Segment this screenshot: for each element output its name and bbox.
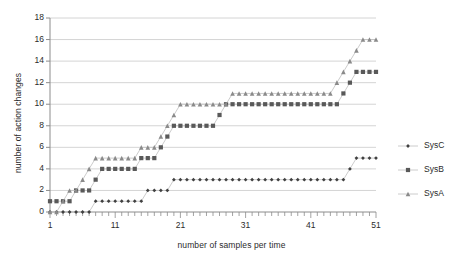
marker-SysC-45 — [342, 178, 346, 182]
marker-SysB-49 — [367, 70, 371, 74]
marker-SysC-42 — [322, 178, 326, 182]
marker-SysB-42 — [322, 102, 326, 106]
marker-SysB-31 — [250, 102, 254, 106]
marker-SysC-4 — [74, 210, 78, 214]
legend-marker-SysC — [406, 144, 410, 148]
marker-SysC-9 — [107, 199, 111, 203]
y-tick-label-8: 8 — [8, 120, 44, 130]
marker-SysC-38 — [296, 178, 300, 182]
marker-SysA-45 — [341, 70, 346, 75]
y-tick-label-16: 16 — [8, 34, 44, 44]
marker-SysB-10 — [113, 167, 117, 171]
marker-SysC-27 — [224, 178, 228, 182]
marker-legend-SysB-0 — [406, 168, 410, 172]
marker-SysC-11 — [120, 199, 124, 203]
marker-SysB-19 — [172, 124, 176, 128]
marker-SysC-24 — [205, 178, 209, 182]
marker-SysC-25 — [211, 178, 215, 182]
marker-SysB-3 — [67, 199, 71, 203]
marker-SysB-44 — [335, 102, 339, 106]
legend-label-SysB[interactable]: SysB — [424, 164, 444, 174]
marker-SysB-38 — [296, 102, 300, 106]
marker-SysA-5 — [80, 177, 85, 182]
marker-SysC-23 — [198, 178, 202, 182]
marker-SysB-1 — [54, 199, 58, 203]
marker-SysA-17 — [159, 134, 164, 139]
marker-SysB-41 — [315, 102, 319, 106]
marker-SysB-47 — [354, 70, 358, 74]
marker-SysB-50 — [374, 70, 378, 74]
marker-SysC-33 — [263, 178, 267, 182]
marker-SysB-11 — [120, 167, 124, 171]
marker-SysB-8 — [100, 167, 104, 171]
marker-SysC-34 — [270, 178, 274, 182]
y-tick-label-10: 10 — [8, 98, 44, 108]
marker-SysB-48 — [361, 70, 365, 74]
marker-SysC-10 — [113, 199, 117, 203]
marker-SysB-45 — [341, 91, 345, 95]
x-axis-title: number of samples per time — [0, 240, 463, 250]
marker-legend-SysC-0 — [406, 144, 410, 148]
marker-SysB-20 — [178, 124, 182, 128]
y-tick-label-18: 18 — [8, 12, 44, 22]
marker-SysB-32 — [257, 102, 261, 106]
marker-SysB-24 — [204, 124, 208, 128]
x-tick-label-11: 11 — [95, 220, 135, 230]
marker-SysC-21 — [185, 178, 189, 182]
marker-SysB-30 — [244, 102, 248, 106]
marker-SysB-43 — [328, 102, 332, 106]
marker-SysB-35 — [276, 102, 280, 106]
series-SysC — [48, 156, 378, 214]
marker-SysB-46 — [348, 81, 352, 85]
marker-SysC-2 — [61, 210, 65, 214]
marker-SysB-5 — [81, 188, 85, 192]
marker-SysB-6 — [87, 188, 91, 192]
legend-marker-SysB — [406, 168, 410, 172]
marker-SysC-15 — [146, 189, 150, 193]
marker-SysB-22 — [191, 124, 195, 128]
line-SysC — [50, 158, 376, 212]
marker-SysC-20 — [179, 178, 183, 182]
marker-SysC-22 — [192, 178, 196, 182]
marker-SysB-39 — [302, 102, 306, 106]
legend-label-SysA[interactable]: SysA — [424, 188, 444, 198]
marker-SysC-31 — [250, 178, 254, 182]
marker-SysB-40 — [309, 102, 313, 106]
y-tick-label-4: 4 — [8, 163, 44, 173]
marker-SysC-6 — [87, 210, 91, 214]
marker-SysA-19 — [172, 113, 177, 118]
y-tick-label-6: 6 — [8, 141, 44, 151]
marker-SysC-47 — [355, 156, 359, 160]
y-tick-label-14: 14 — [8, 55, 44, 65]
marker-SysB-15 — [146, 156, 150, 160]
marker-SysC-44 — [335, 178, 339, 182]
marker-SysC-49 — [368, 156, 372, 160]
marker-SysC-5 — [81, 210, 85, 214]
marker-SysC-46 — [348, 167, 352, 171]
marker-SysB-29 — [237, 102, 241, 106]
x-tick-label-31: 31 — [226, 220, 266, 230]
marker-SysB-18 — [165, 134, 169, 138]
y-tick-label-12: 12 — [8, 77, 44, 87]
marker-SysC-35 — [276, 178, 280, 182]
marker-SysB-9 — [107, 167, 111, 171]
marker-SysB-14 — [139, 156, 143, 160]
marker-SysC-13 — [133, 199, 137, 203]
x-tick-label-51: 51 — [356, 220, 396, 230]
marker-SysB-0 — [48, 199, 52, 203]
marker-SysB-25 — [211, 124, 215, 128]
marker-SysB-28 — [230, 102, 234, 106]
chart-figure: number of samples per time number of act… — [0, 0, 463, 266]
marker-SysB-13 — [133, 167, 137, 171]
line-SysB — [50, 72, 376, 201]
x-tick-label-41: 41 — [291, 220, 331, 230]
marker-SysC-37 — [289, 178, 293, 182]
marker-SysC-28 — [231, 178, 235, 182]
marker-SysC-39 — [302, 178, 306, 182]
marker-SysB-34 — [270, 102, 274, 106]
x-tick-label-21: 21 — [160, 220, 200, 230]
marker-SysB-21 — [185, 124, 189, 128]
marker-SysC-48 — [361, 156, 365, 160]
marker-SysB-17 — [159, 145, 163, 149]
legend-label-SysC[interactable]: SysC — [424, 140, 444, 150]
